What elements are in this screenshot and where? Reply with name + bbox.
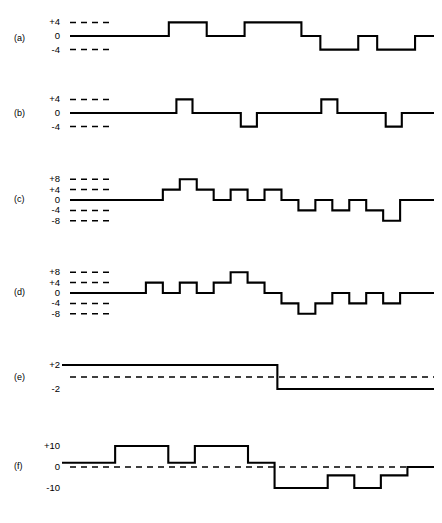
tick-label-f-1: 0 xyxy=(24,462,60,472)
tick-label-f-2: -10 xyxy=(24,483,60,493)
waveform-plot-f xyxy=(0,0,442,523)
waveform-figure: (a)+40-4(b)+40-4(c)+8+40-4-8(d)+8+40-4-8… xyxy=(0,0,442,523)
tick-label-f-0: +10 xyxy=(24,441,60,451)
